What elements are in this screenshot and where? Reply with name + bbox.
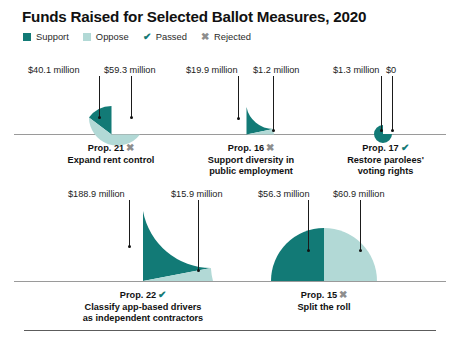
legend-item-oppose: Oppose <box>83 31 129 42</box>
semicircle-prop-22 <box>73 211 213 281</box>
caption-desc-22-line-2: as independent contractors <box>68 313 218 325</box>
annotation-prop-17-oppose: $0 <box>386 66 396 75</box>
chart-container: Funds Raised for Selected Ballot Measure… <box>0 0 460 340</box>
legend-item-rejected: ✖ Rejected <box>201 31 251 42</box>
leader-line-prop-21-oppose <box>131 76 132 117</box>
caption-desc-21-line-1: Expand rent control <box>36 155 186 167</box>
legend: Support Oppose ✔ Passed ✖ Rejected <box>23 31 251 42</box>
rejected-icon-15: ✖ <box>339 289 347 300</box>
semicircle-prop-15 <box>271 228 377 281</box>
caption-desc-16-line-2: public employment <box>171 166 331 178</box>
annotation-prop-15-oppose: $60.9 million <box>333 190 385 199</box>
leader-dot-prop-22-support <box>128 245 131 248</box>
leader-line-prop-16-support <box>238 76 239 118</box>
leader-dot-prop-17-support <box>380 129 383 132</box>
caption-prop-label-22: Prop. 22 <box>120 290 156 300</box>
annotation-prop-15-support: $56.3 million <box>258 190 310 199</box>
legend-label-support: Support <box>36 31 69 42</box>
caption-prop-label-16: Prop. 16 <box>228 143 264 153</box>
leader-line-prop-16-oppose <box>273 76 274 130</box>
caption-prop-label-17: Prop. 17 <box>362 143 398 153</box>
semicircle-prop-16 <box>219 107 274 135</box>
legend-label-rejected: Rejected <box>214 31 251 42</box>
leader-line-prop-17-oppose <box>392 76 393 130</box>
annotation-prop-16-support: $19.9 million <box>186 66 238 75</box>
caption-prop-16: Prop. 16✖ Support diversity in public em… <box>171 142 331 178</box>
leader-dot-prop-15-support <box>307 249 310 252</box>
rejected-icon-16: ✖ <box>266 142 274 153</box>
legend-label-passed: Passed <box>156 31 187 42</box>
leader-line-prop-22-oppose <box>198 200 199 270</box>
caption-prop-17: Prop. 17✔ Restore parolees' voting right… <box>313 142 458 178</box>
legend-label-oppose: Oppose <box>96 31 129 42</box>
caption-prop-label-21: Prop. 21 <box>88 143 124 153</box>
oppose-swatch-icon <box>83 33 91 41</box>
baseline-row-2 <box>14 281 446 282</box>
legend-item-support: Support <box>23 31 69 42</box>
leader-line-prop-21-support <box>99 76 100 117</box>
caption-prop-22: Prop. 22✔ Classify app-based drivers as … <box>68 289 218 325</box>
caption-desc-17-line-1: Restore parolees' <box>313 155 458 167</box>
leader-line-prop-15-oppose <box>360 200 361 250</box>
caption-desc-15-line-1: Split the roll <box>249 302 399 314</box>
caption-prop-label-15: Prop. 15 <box>301 290 337 300</box>
legend-item-passed: ✔ Passed <box>143 31 187 42</box>
annotation-prop-16-oppose: $1.2 million <box>253 66 299 75</box>
leader-dot-prop-17-oppose <box>391 129 394 132</box>
annotation-prop-21-oppose: $59.3 million <box>104 66 156 75</box>
annotation-prop-22-support: $188.9 million <box>68 190 125 199</box>
leader-line-prop-17-support <box>381 76 382 130</box>
rejected-icon-21: ✖ <box>126 142 134 153</box>
leader-dot-prop-15-oppose <box>359 249 362 252</box>
cross-icon: ✖ <box>201 32 209 42</box>
leader-dot-prop-21-support <box>98 116 101 119</box>
leader-line-prop-15-support <box>308 200 309 250</box>
annotation-prop-22-oppose: $15.9 million <box>171 190 223 199</box>
caption-desc-22-line-1: Classify app-based drivers <box>68 302 218 314</box>
page-title: Funds Raised for Selected Ballot Measure… <box>22 8 366 25</box>
annotation-prop-17-support: $1.3 million <box>333 66 379 75</box>
caption-desc-16-line-1: Support diversity in <box>171 155 331 167</box>
leader-line-prop-22-support <box>129 200 130 246</box>
footer-rule <box>24 330 436 331</box>
leader-dot-prop-16-oppose <box>272 129 275 132</box>
passed-icon-17: ✔ <box>401 142 409 153</box>
semicircle-prop-17 <box>374 125 392 134</box>
annotation-prop-21-support: $40.1 million <box>28 66 80 75</box>
check-icon: ✔ <box>143 32 151 42</box>
passed-icon-22: ✔ <box>158 289 166 300</box>
caption-prop-15: Prop. 15✖ Split the roll <box>249 289 399 313</box>
caption-desc-17-line-2: voting rights <box>313 166 458 178</box>
leader-dot-prop-16-support <box>237 117 240 120</box>
caption-prop-21: Prop. 21✖ Expand rent control <box>36 142 186 166</box>
leader-dot-prop-21-oppose <box>130 116 133 119</box>
leader-dot-prop-22-oppose <box>197 269 200 272</box>
support-swatch-icon <box>23 33 31 41</box>
